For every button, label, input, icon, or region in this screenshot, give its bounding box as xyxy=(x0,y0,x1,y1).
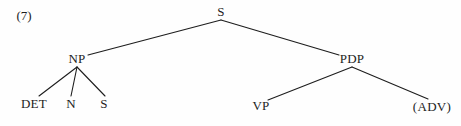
tree-node-s_leaf: S xyxy=(100,97,108,110)
tree-node-vp: VP xyxy=(252,99,269,112)
tree-node-np: NP xyxy=(68,52,85,65)
tree-edge-np-to-s_leaf xyxy=(77,67,105,96)
syntax-tree-figure: (7) SNPPDPDETNSVP(ADV) xyxy=(0,0,461,126)
tree-node-det: DET xyxy=(21,97,47,110)
tree-node-n: N xyxy=(66,97,76,110)
tree-edge-s_root-to-pdp xyxy=(221,20,339,55)
tree-node-s_root: S xyxy=(217,5,225,18)
tree-node-pdp: PDP xyxy=(340,52,365,65)
tree-edge-pdp-to-vp xyxy=(268,67,352,100)
tree-edge-s_root-to-np xyxy=(88,20,221,55)
tree-edge-pdp-to-adv xyxy=(352,67,428,99)
tree-node-adv: (ADV) xyxy=(413,100,451,113)
tree-edge-np-to-det xyxy=(39,67,77,96)
